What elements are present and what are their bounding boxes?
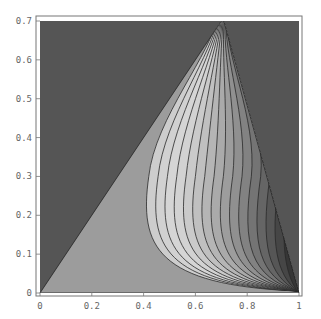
x-tick-label: 0.6 [187,301,203,311]
y-tick-label: 0.5 [16,94,32,104]
y-tick-label: 0.6 [16,55,32,65]
y-tick-label: 0.1 [16,249,32,259]
x-tick-label: 0.2 [84,301,100,311]
y-tick-label: 0.3 [16,171,32,181]
y-tick-label: 0.4 [16,133,32,143]
y-tick-label: 0.7 [16,16,32,26]
x-tick-label: 0.8 [239,301,255,311]
contour-plot: 00.20.40.60.81 00.10.20.30.40.50.60.7 [0,0,321,319]
x-tick-label: 1 [296,301,301,311]
y-tick-label: 0 [27,288,32,298]
x-tick-label: 0 [37,301,42,311]
y-tick-label: 0.2 [16,210,32,220]
x-tick-label: 0.4 [135,301,151,311]
